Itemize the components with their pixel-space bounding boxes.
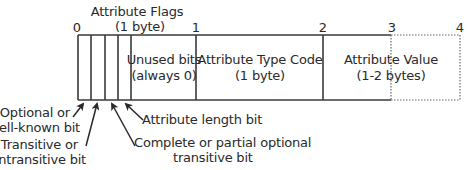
label-transitive-line2: nontransitive bit [0, 152, 86, 167]
arrows [73, 104, 143, 146]
byte-marker-0: 0 [73, 21, 81, 35]
label-partial-line1: Complete or partial optional [134, 135, 311, 150]
label-optional-line1: Optional or [0, 105, 70, 120]
field-attribute-value-line1: Attribute Value [344, 52, 438, 67]
byte-marker-3: 3 [388, 21, 396, 35]
byte-marker-4: 4 [456, 21, 464, 35]
field-attribute-value-line2: (1-2 bytes) [356, 68, 425, 83]
attribute-flags-size: (1 byte) [115, 19, 165, 34]
label-transitive-line1: Transitive or [1, 137, 78, 152]
attribute-flags-title: Attribute Flags [91, 4, 184, 19]
field-type-code-line2: (1 byte) [235, 68, 285, 83]
byte-marker-2: 2 [319, 21, 327, 35]
field-unused-bits-line2: (always 0) [131, 68, 196, 83]
label-length: Attribute length bit [142, 112, 262, 127]
label-optional-line2: well-known bit [0, 120, 80, 135]
field-unused-bits-line1: Unused bits [127, 52, 202, 67]
byte-marker-1: 1 [192, 21, 200, 35]
label-partial-line2: transitive bit [173, 150, 253, 165]
field-type-code-line1: Attribute Type Code [197, 52, 322, 67]
